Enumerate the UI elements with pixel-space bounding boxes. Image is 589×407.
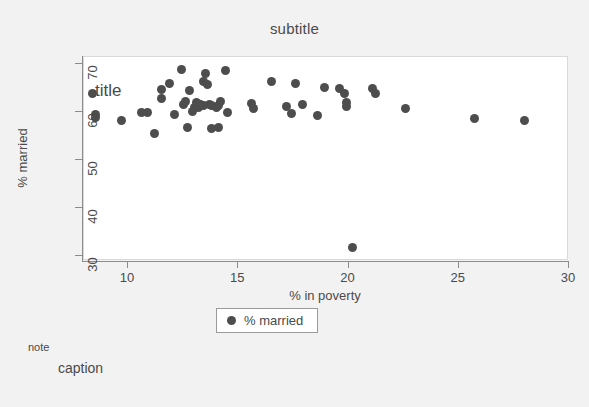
scatter-point	[185, 86, 194, 95]
scatter-point	[371, 89, 380, 98]
x-tick-mark	[348, 261, 349, 268]
scatter-point	[470, 114, 479, 123]
x-tick-label: 15	[217, 270, 257, 285]
chart-caption: caption	[58, 360, 103, 376]
scatter-point	[143, 108, 152, 117]
x-tick-label: 25	[438, 270, 478, 285]
y-tick-mark	[75, 111, 82, 112]
plot-area[interactable]	[83, 56, 568, 260]
y-tick-label: 50	[85, 159, 100, 179]
scatter-point	[165, 79, 174, 88]
y-tick-label: 40	[85, 207, 100, 227]
x-tick-mark	[237, 261, 238, 268]
legend-box[interactable]: % married	[216, 308, 318, 333]
legend-marker-circle-icon	[227, 316, 236, 325]
y-tick-mark	[75, 255, 82, 256]
scatter-point	[214, 123, 223, 132]
chart-subtitle: subtitle	[0, 20, 589, 37]
x-tick-label: 10	[107, 270, 147, 285]
scatter-point	[342, 102, 351, 111]
scatter-point	[348, 243, 357, 252]
scatter-point	[223, 108, 232, 117]
scatter-point	[298, 100, 307, 109]
x-axis-line	[82, 261, 568, 262]
legend-label: % married	[244, 313, 303, 328]
scatter-point	[216, 97, 225, 106]
scatter-point	[157, 85, 166, 94]
scatter-point	[221, 66, 230, 75]
scatter-point	[340, 89, 349, 98]
y-tick-mark	[75, 159, 82, 160]
scatter-point	[287, 109, 296, 118]
scatter-points-layer	[84, 57, 567, 259]
scatter-point	[320, 83, 329, 92]
scatter-point	[201, 69, 210, 78]
y-tick-label: 60	[85, 111, 100, 131]
scatter-point	[170, 110, 179, 119]
scatter-point	[203, 80, 212, 89]
scatter-point	[313, 111, 322, 120]
scatter-point	[291, 79, 300, 88]
scatter-point	[520, 116, 529, 125]
x-tick-label: 20	[328, 270, 368, 285]
stata-scatter-figure: subtitle title 10152025303040506070 % ma…	[0, 0, 589, 407]
x-tick-mark	[568, 261, 569, 268]
y-axis-title: % married	[15, 128, 30, 187]
chart-title: title	[95, 81, 121, 101]
scatter-point	[150, 129, 159, 138]
scatter-point	[267, 77, 276, 86]
chart-note: note	[28, 341, 49, 353]
y-tick-mark	[75, 63, 82, 64]
x-tick-mark	[458, 261, 459, 268]
x-tick-label: 30	[548, 270, 588, 285]
scatter-point	[181, 97, 190, 106]
y-axis-line	[82, 56, 83, 261]
scatter-point	[157, 94, 166, 103]
scatter-point	[401, 104, 410, 113]
scatter-point	[249, 104, 258, 113]
x-tick-mark	[127, 261, 128, 268]
y-tick-mark	[75, 207, 82, 208]
x-axis-title: % in poverty	[82, 288, 568, 303]
scatter-point	[117, 116, 126, 125]
scatter-point	[183, 123, 192, 132]
scatter-point	[177, 65, 186, 74]
y-tick-label: 70	[85, 63, 100, 83]
y-tick-label: 30	[85, 255, 100, 275]
